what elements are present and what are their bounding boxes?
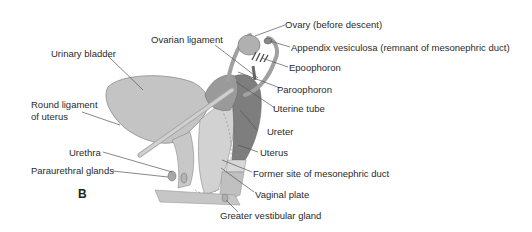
label-urinary-bladder: Urinary bladder xyxy=(51,48,116,59)
label-round-ligament-line1: Round ligament xyxy=(31,99,98,110)
label-ureter: Ureter xyxy=(267,126,293,137)
label-uterine-tube: Uterine tube xyxy=(273,103,325,114)
label-ovarian-ligament: Ovarian ligament xyxy=(151,34,223,45)
label-former-site-mesonephric-duct: Former site of mesonephric duct xyxy=(253,168,389,179)
label-paraurethral-glands: Paraurethral glands xyxy=(31,165,114,176)
label-appendix-vesiculosa: Appendix vesiculosa (remnant of mesoneph… xyxy=(291,42,510,53)
label-greater-vestibular-gland: Greater vestibular gland xyxy=(220,210,321,221)
panel-label: B xyxy=(78,187,87,201)
label-ovary: Ovary (before descent) xyxy=(285,19,382,30)
label-urethra: Urethra xyxy=(69,147,101,158)
label-vaginal-plate: Vaginal plate xyxy=(255,189,309,200)
label-round-ligament-line2: of uterus xyxy=(31,111,68,122)
vaginal-plate-shape xyxy=(226,160,246,172)
anatomy-diagram: Ovary (before descent) Appendix vesiculo… xyxy=(0,0,532,232)
ovary-shape xyxy=(238,35,260,55)
urinary-bladder-shape xyxy=(106,76,209,144)
label-uterus: Uterus xyxy=(260,147,288,158)
label-paroophoron: Paroophoron xyxy=(277,84,332,95)
label-epoophoron: Epoophoron xyxy=(289,62,341,73)
